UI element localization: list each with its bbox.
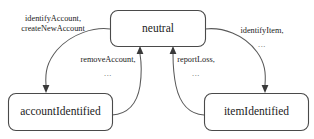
state-label-item-identified: itemIdentified (224, 105, 289, 117)
edge-label-line-2: ... (258, 40, 266, 49)
state-node-neutral[interactable]: neutral (111, 11, 206, 47)
arrowhead-into-item-identified (262, 85, 269, 93)
state-diagram: neutral accountIdentified itemIdentified… (0, 0, 314, 139)
state-label-account-identified: accountIdentified (20, 105, 101, 117)
arrowhead-into-neutral-from-account (137, 46, 144, 54)
arrowhead-into-neutral-from-item (170, 46, 177, 54)
edge-label-line-1: reportLoss, (177, 55, 215, 64)
arrowhead-into-account-identified (43, 85, 50, 93)
edge-label-neutral-to-account-identified: identifyAccount, createNewAccount (21, 14, 85, 33)
edge-label-neutral-to-item-identified: identifyItem, ... (240, 26, 283, 49)
edge-label-line-1: removeAccount, (80, 55, 135, 64)
state-node-account-identified[interactable]: accountIdentified (9, 94, 113, 131)
edge-label-account-identified-to-neutral: removeAccount, ... (80, 55, 135, 78)
edge-label-line-2: ... (192, 69, 200, 78)
state-node-item-identified[interactable]: itemIdentified (205, 94, 309, 131)
edge-label-line-2: ... (104, 69, 112, 78)
state-diagram-canvas: neutral accountIdentified itemIdentified… (0, 0, 314, 139)
edge-label-item-identified-to-neutral: reportLoss, ... (177, 55, 215, 78)
edge-label-line-2: createNewAccount (21, 24, 85, 33)
edge-label-line-1: identifyItem, (240, 26, 283, 35)
edge-label-line-1: identifyAccount, (25, 14, 81, 23)
state-label-neutral: neutral (142, 22, 174, 34)
